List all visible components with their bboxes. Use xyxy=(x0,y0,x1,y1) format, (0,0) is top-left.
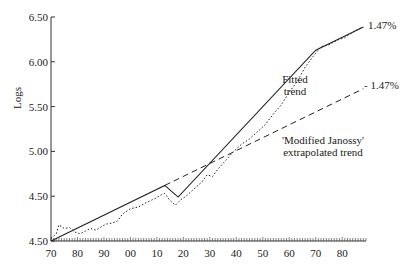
x-tick-label: 10 xyxy=(145,247,169,259)
x-tick-label: 00 xyxy=(118,247,142,259)
x-tick-label: 40 xyxy=(224,247,248,259)
y-tick-label: 6.00 xyxy=(20,56,48,68)
janossy-rate-label: - 1.47% xyxy=(364,79,399,91)
x-tick-label: 80 xyxy=(330,247,354,259)
x-tick-label: 50 xyxy=(251,247,275,259)
x-tick-label: 20 xyxy=(171,247,195,259)
y-tick-label: 5.50 xyxy=(20,101,48,113)
janossy-annotation-line1: 'Modified Janossy' xyxy=(268,134,378,146)
fitted-rate-label: 1.47% xyxy=(368,19,396,31)
x-tick-label: 90 xyxy=(92,247,116,259)
y-tick-label: 4.50 xyxy=(20,190,48,202)
x-tick-label: 70 xyxy=(39,247,63,259)
y-tick-label: 6.50 xyxy=(20,11,48,23)
x-tick-label: 70 xyxy=(304,247,328,259)
axes xyxy=(51,17,366,241)
x-tick-label: 30 xyxy=(198,247,222,259)
x-tick-label: 60 xyxy=(277,247,301,259)
y-axis-label: Logs xyxy=(11,87,23,109)
janossy-annotation-line2: extrapolated trend xyxy=(268,146,378,158)
janossy-trend-annotation: 'Modified Janossy' extrapolated trend xyxy=(268,134,378,158)
fitted-trend-annotation: Fitted trend xyxy=(275,73,315,97)
y-tick-label: 5.00 xyxy=(20,145,48,157)
x-tick-label: 80 xyxy=(65,247,89,259)
y-tick-label: 4.50 xyxy=(20,235,48,247)
fitted-annotation-line2: trend xyxy=(275,85,315,97)
fitted-annotation-line1: Fitted xyxy=(275,73,315,85)
